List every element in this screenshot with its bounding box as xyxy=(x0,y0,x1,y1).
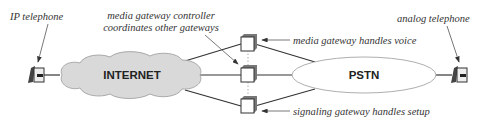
signaling-gateway-box xyxy=(241,96,257,113)
analog-telephone-arrow xyxy=(447,26,459,62)
media-gateway-controller-box xyxy=(241,65,257,82)
internet-cloud: INTERNET xyxy=(61,52,201,99)
ip-telephone-label: IP telephone xyxy=(9,11,64,22)
internet-label: INTERNET xyxy=(103,69,161,81)
analog-telephone-label: analog telephone xyxy=(397,13,470,24)
pstn-label: PSTN xyxy=(349,69,380,81)
mgc-label-line2: coordinates other gateways xyxy=(103,22,219,33)
ip-telephone-arrow xyxy=(38,24,48,62)
mgc-arrow xyxy=(205,35,238,64)
ip-telephone-icon xyxy=(28,66,44,83)
media-gateway-label: media gateway handles voice xyxy=(293,35,417,46)
voip-gateway-diagram: INTERNET PSTN IP telephone media gateway… xyxy=(0,0,496,126)
mgc-label-line1: media gateway controller xyxy=(107,10,215,21)
media-gateway-box xyxy=(241,34,257,51)
signaling-gateway-label: signaling gateway handles setup xyxy=(293,106,430,117)
pstn-ellipse: PSTN xyxy=(292,57,436,93)
analog-telephone-icon xyxy=(451,66,467,83)
